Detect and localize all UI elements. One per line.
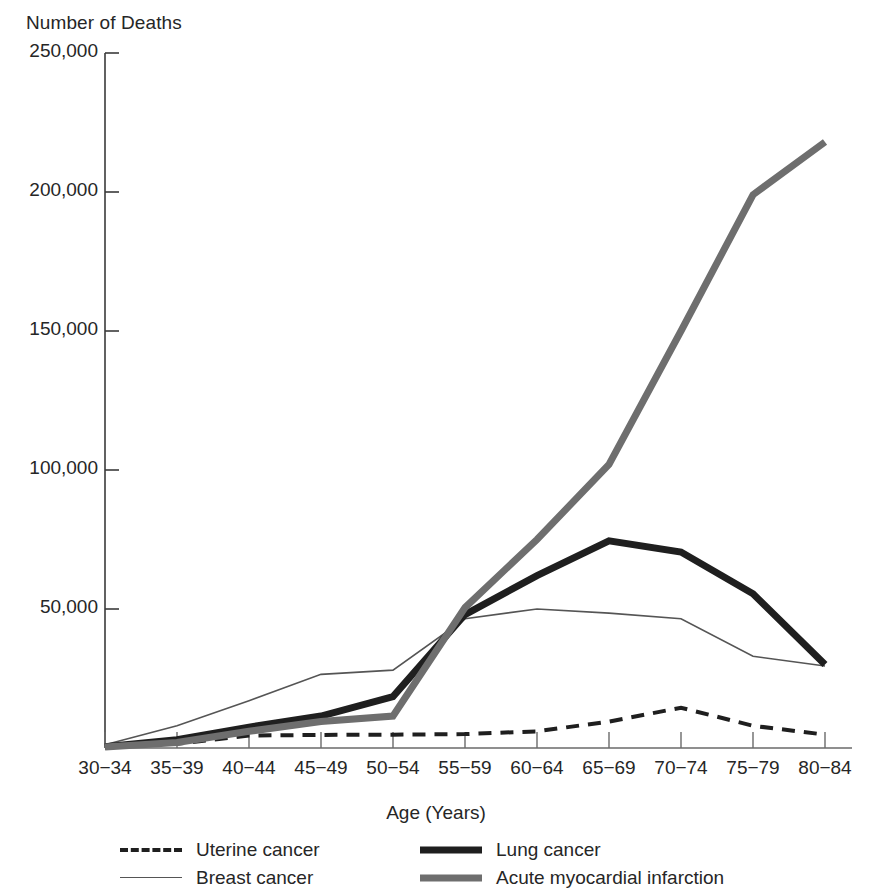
legend-item-lung-cancer[interactable]: Lung cancer (420, 839, 860, 861)
legend-label-acute-myocardial-infarction: Acute myocardial infarction (496, 867, 724, 889)
x-tick-label: 35−39 (150, 757, 203, 779)
x-tick-label: 55−59 (438, 757, 491, 779)
series-line-acute-myocardial-infarction (105, 142, 825, 747)
axes-group (105, 53, 852, 748)
legend-label-breast-cancer: Breast cancer (196, 867, 313, 889)
x-tick-label: 65−69 (582, 757, 635, 779)
x-tick-label: 70−74 (654, 757, 707, 779)
series-line-lung-cancer (105, 541, 825, 747)
acute-myocardial-infarction-line-icon (420, 871, 482, 885)
y-tick-label: 250,000 (2, 40, 98, 62)
x-axis-title: Age (Years) (0, 802, 872, 824)
chart-figure: Number of Deaths 50,000100,000150,000200… (0, 0, 872, 895)
x-tick-label: 60−64 (510, 757, 563, 779)
y-tick-label: 100,000 (2, 457, 98, 479)
x-tick-label: 30−34 (78, 757, 131, 779)
legend-item-acute-myocardial-infarction[interactable]: Acute myocardial infarction (420, 867, 860, 889)
y-tick-label: 50,000 (2, 596, 98, 618)
x-tick-label: 50−54 (366, 757, 419, 779)
legend-label-uterine-cancer: Uterine cancer (196, 839, 320, 861)
legend-label-lung-cancer: Lung cancer (496, 839, 601, 861)
series-line-breast-cancer (105, 609, 825, 745)
x-tick-label: 75−79 (726, 757, 779, 779)
breast-cancer-line-icon (120, 871, 182, 885)
chart-legend: Uterine cancer Lung cancer Breast cancer… (120, 836, 860, 892)
lung-cancer-line-icon (420, 843, 482, 857)
y-tick-label: 200,000 (2, 179, 98, 201)
uterine-cancer-line-icon (120, 843, 182, 857)
x-tick-label: 40−44 (222, 757, 275, 779)
legend-item-breast-cancer[interactable]: Breast cancer (120, 867, 420, 889)
y-tick-label: 150,000 (2, 318, 98, 340)
legend-item-uterine-cancer[interactable]: Uterine cancer (120, 839, 420, 861)
x-tick-label: 80−84 (798, 757, 851, 779)
series-group (105, 142, 825, 747)
x-tick-label: 45−49 (294, 757, 347, 779)
